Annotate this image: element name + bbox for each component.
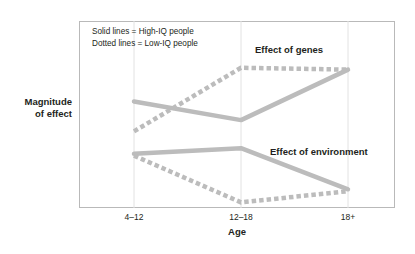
plot-canvas	[79, 21, 395, 208]
x-axis-tick-label: 18+	[313, 212, 383, 222]
x-axis-tick-label: 12–18	[206, 212, 276, 222]
y-axis-title-line-1: Magnitude	[0, 96, 72, 108]
y-axis-title-line-2: of effect	[0, 108, 72, 120]
series-label-effect-of-genes: Effect of genes	[255, 44, 323, 55]
y-axis-title: Magnitude of effect	[0, 96, 72, 119]
x-axis-title: Age	[79, 226, 395, 237]
legend-entry-dotted: Dotted lines = Low-IQ people	[92, 38, 198, 50]
chart-figure: Magnitude of effect 4–1212–1818+ Age Sol…	[0, 0, 415, 254]
chart-legend: Solid lines = High-IQ people Dotted line…	[92, 26, 198, 49]
series-label-effect-of-environment: Effect of environment	[270, 146, 368, 157]
legend-entry-solid: Solid lines = High-IQ people	[92, 26, 198, 38]
x-axis-tick-label: 4–12	[99, 212, 169, 222]
